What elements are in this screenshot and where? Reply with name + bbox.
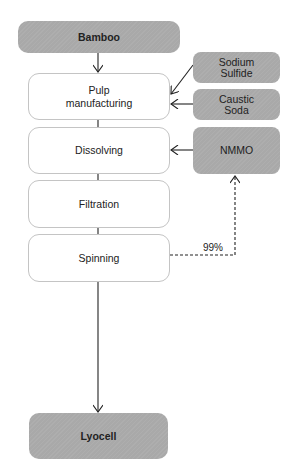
step-label: Dissolving	[75, 144, 123, 157]
source-bamboo: Bamboo	[18, 21, 180, 53]
step-label: Spinning	[79, 252, 120, 265]
input-sodium-sulfide: Sodium Sulfide	[193, 52, 280, 83]
step-label-line2: manufacturing	[66, 97, 133, 110]
recycle-percentage-label: 99%	[203, 242, 223, 253]
step-filtration: Filtration	[28, 180, 170, 228]
step-spinning: Spinning	[28, 234, 170, 282]
input-label-line1: Caustic	[219, 94, 254, 105]
step-dissolving: Dissolving	[28, 127, 170, 174]
input-label-line1: Sodium	[219, 57, 255, 68]
step-label-line1: Pulp	[88, 84, 109, 97]
step-pulp-manufacturing: Pulp manufacturing	[28, 73, 170, 120]
arrow-sodium-sulfide-to-pulp	[171, 65, 193, 94]
step-label: Filtration	[79, 198, 119, 211]
product-label: Lyocell	[81, 430, 117, 442]
product-lyocell: Lyocell	[29, 413, 168, 459]
input-label: NMMO	[220, 145, 253, 156]
source-label: Bamboo	[78, 31, 120, 43]
input-label-line2: Soda	[224, 105, 249, 116]
input-label-line2: Sulfide	[220, 68, 252, 79]
input-nmmo: NMMO	[193, 127, 280, 174]
input-caustic-soda: Caustic Soda	[193, 89, 280, 120]
